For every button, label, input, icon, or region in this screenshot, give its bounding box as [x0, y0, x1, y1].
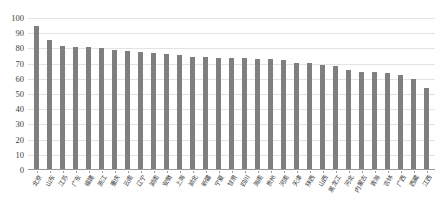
x-tick-slot: 山西 — [316, 171, 329, 224]
x-tick-mark — [427, 171, 428, 173]
bar-series — [28, 18, 435, 169]
x-tick-slot: 海南 — [251, 171, 264, 224]
x-tick-mark — [349, 171, 350, 173]
x-tick-slot: 贵州 — [264, 171, 277, 224]
bar[interactable] — [190, 57, 195, 169]
x-tick-label: 湖南 — [148, 174, 160, 188]
bar[interactable] — [255, 59, 260, 169]
bar[interactable] — [424, 88, 429, 169]
x-tick-slot: 吉林 — [381, 171, 394, 224]
bar-slot — [95, 18, 108, 169]
x-tick-label: 天津 — [291, 174, 303, 188]
bar[interactable] — [125, 51, 130, 169]
x-tick-slot: 北京 — [30, 171, 43, 224]
x-tick-mark — [388, 171, 389, 173]
x-tick-label: 陕西 — [304, 174, 316, 188]
y-axis-tick-labels: 0102030405060708090100 — [0, 18, 26, 170]
x-tick-slot: 浙江 — [95, 171, 108, 224]
x-tick-label: 新疆 — [200, 174, 212, 188]
bar[interactable] — [112, 50, 117, 169]
bar[interactable] — [281, 60, 286, 169]
bar-slot — [277, 18, 290, 169]
bar[interactable] — [320, 65, 325, 169]
bar[interactable] — [385, 73, 390, 169]
x-tick-label: 甘肃 — [226, 174, 238, 188]
x-tick-label: 云南 — [122, 174, 134, 188]
bar[interactable] — [346, 70, 351, 169]
bar-slot — [56, 18, 69, 169]
x-tick-slot: 上海 — [173, 171, 186, 224]
y-tick-label: 60 — [0, 74, 24, 83]
bar-slot — [82, 18, 95, 169]
bar[interactable] — [60, 46, 65, 169]
x-tick-slot: 安徽 — [160, 171, 173, 224]
x-tick-mark — [297, 171, 298, 173]
bar[interactable] — [99, 48, 104, 169]
x-tick-mark — [232, 171, 233, 173]
x-tick-slot: 宁夏 — [212, 171, 225, 224]
bar[interactable] — [398, 75, 403, 169]
bar[interactable] — [359, 72, 364, 169]
bar[interactable] — [242, 58, 247, 169]
x-tick-mark — [362, 171, 363, 173]
bar[interactable] — [73, 47, 78, 169]
x-tick-mark — [193, 171, 194, 173]
x-tick-label: 河北 — [343, 174, 355, 188]
bar-slot — [342, 18, 355, 169]
x-tick-label: 广西 — [395, 174, 407, 188]
x-axis-tick-labels: 北京山东江苏广东福建浙江重庆云南辽宁湖南安徽上海湖北新疆宁夏甘肃四川海南贵州河南… — [28, 171, 435, 224]
bar[interactable] — [268, 59, 273, 169]
bar[interactable] — [34, 26, 39, 169]
bar-slot — [381, 18, 394, 169]
bar[interactable] — [333, 66, 338, 169]
x-tick-slot: 河北 — [342, 171, 355, 224]
x-tick-label: 吉林 — [382, 174, 394, 188]
bar-slot — [251, 18, 264, 169]
x-tick-label: 辽宁 — [135, 174, 147, 188]
x-tick-mark — [375, 171, 376, 173]
bar[interactable] — [372, 72, 377, 169]
x-tick-slot: 新疆 — [199, 171, 212, 224]
x-tick-mark — [323, 171, 324, 173]
x-tick-mark — [206, 171, 207, 173]
x-axis-line — [28, 169, 435, 170]
x-tick-label: 江苏 — [57, 174, 69, 188]
bar[interactable] — [86, 47, 91, 169]
x-tick-mark — [89, 171, 90, 173]
bar-slot — [160, 18, 173, 169]
x-tick-slot: 青海 — [368, 171, 381, 224]
x-tick-label: 海南 — [252, 174, 264, 188]
y-tick-label: 20 — [0, 135, 24, 144]
x-tick-slot: 云南 — [121, 171, 134, 224]
bar[interactable] — [216, 58, 221, 169]
x-tick-label: 宁夏 — [213, 174, 225, 188]
x-tick-mark — [258, 171, 259, 173]
bar[interactable] — [177, 55, 182, 169]
bar[interactable] — [229, 58, 234, 169]
bar[interactable] — [307, 63, 312, 169]
bar[interactable] — [138, 52, 143, 169]
x-tick-mark — [37, 171, 38, 173]
bar[interactable] — [294, 63, 299, 169]
x-tick-mark — [63, 171, 64, 173]
bar-slot — [225, 18, 238, 169]
x-tick-slot: 福建 — [82, 171, 95, 224]
x-tick-label: 上海 — [174, 174, 186, 188]
x-tick-slot: 甘肃 — [225, 171, 238, 224]
x-tick-label: 广东 — [70, 174, 82, 188]
x-tick-label: 福建 — [83, 174, 95, 188]
x-tick-mark — [180, 171, 181, 173]
x-tick-label: 北京 — [31, 174, 43, 188]
x-tick-label: 贵州 — [265, 174, 277, 188]
x-tick-slot: 江西 — [420, 171, 433, 224]
bar-slot — [329, 18, 342, 169]
bar[interactable] — [164, 54, 169, 169]
bar[interactable] — [203, 57, 208, 169]
bar[interactable] — [151, 53, 156, 169]
bar[interactable] — [47, 40, 52, 169]
bar[interactable] — [411, 79, 416, 169]
bar-slot — [43, 18, 56, 169]
x-tick-label: 内蒙古 — [353, 174, 368, 193]
x-tick-label: 山东 — [44, 174, 56, 188]
bar-slot — [121, 18, 134, 169]
